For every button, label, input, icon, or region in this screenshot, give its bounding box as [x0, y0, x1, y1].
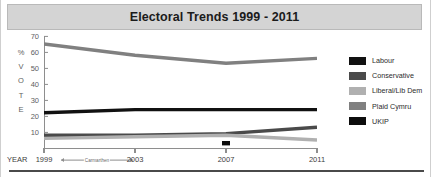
y-axis-title-char-3: T: [19, 89, 24, 103]
y-axis-title: % V O T E: [15, 46, 27, 117]
x-axis-label-1999: 1999: [36, 155, 53, 164]
legend-item-label: Liberal/Lib Dem: [372, 86, 422, 95]
page-title: Electoral Trends 1999 - 2011: [130, 10, 300, 24]
legend-item-label: UKIP: [372, 117, 389, 126]
legend-item-label: Labour: [372, 56, 394, 65]
x-axis-tickmark-2003: [134, 148, 135, 153]
x-axis-title: YEAR: [7, 155, 27, 164]
x-axis-tickmark-1999: [43, 148, 44, 153]
legend-item-label: Plaid Cymru: [372, 102, 411, 111]
series-line-plaid-cymru: [44, 44, 317, 63]
series-line-conservative: [44, 127, 317, 135]
legend-swatch-icon: [349, 117, 366, 125]
plot-area: 10203040506070: [44, 36, 317, 148]
y-axis-tick-70: 70: [31, 32, 44, 41]
chart-container: Electoral Trends 1999 - 2011 % V O T E 1…: [0, 0, 431, 177]
x-axis-label-2003: 2003: [127, 155, 144, 164]
x-axis-tickmark-2011: [316, 148, 317, 153]
legend-item-ukip[interactable]: UKIP: [349, 117, 422, 126]
y-axis-tick-50: 50: [31, 64, 44, 73]
y-axis-title-char-4: E: [18, 103, 23, 117]
y-axis-title-char-2: O: [18, 74, 24, 88]
legend-swatch-icon: [349, 57, 366, 65]
legend-item-label: Conservative: [372, 71, 414, 80]
y-axis-tick-20: 20: [31, 112, 44, 121]
x-axis-label-2011: 2011: [309, 155, 325, 164]
x-axis-line: [44, 148, 317, 149]
chart-title-banner: Electoral Trends 1999 - 2011: [7, 4, 422, 30]
y-axis-tick-60: 60: [31, 48, 44, 57]
y-axis-tick-40: 40: [31, 80, 44, 89]
y-axis-tick-30: 30: [31, 96, 44, 105]
series-marker-ukip: [222, 141, 230, 145]
annotation-label: Carmarthen: [84, 157, 110, 162]
constituency-annotation: Carmarthen: [61, 155, 133, 164]
legend-swatch-icon: [349, 72, 366, 80]
series-line-labour: [44, 110, 317, 113]
legend-item-plaid-cymru[interactable]: Plaid Cymru: [349, 102, 422, 111]
legend: LabourConservativeLiberal/Lib DemPlaid C…: [349, 56, 422, 126]
x-axis-label-2007: 2007: [218, 155, 235, 164]
arrow-left-icon: [61, 158, 64, 162]
legend-swatch-icon: [349, 102, 366, 110]
y-axis-tick-10: 10: [31, 128, 44, 137]
y-axis-title-char-1: V: [18, 60, 23, 74]
legend-item-labour[interactable]: Labour: [349, 56, 422, 65]
legend-item-liberal-lib-dem[interactable]: Liberal/Lib Dem: [349, 86, 422, 95]
bottom-divider: [9, 170, 424, 172]
y-axis-title-char-0: %: [18, 46, 25, 60]
series-lines: [44, 36, 317, 148]
legend-swatch-icon: [349, 87, 366, 95]
legend-item-conservative[interactable]: Conservative: [349, 71, 422, 80]
x-axis-tickmark-2007: [225, 148, 226, 153]
